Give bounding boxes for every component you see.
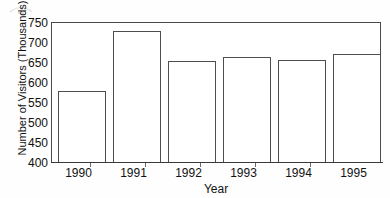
bar-1993 xyxy=(223,57,271,162)
y-tick-label: 600 xyxy=(12,77,48,89)
y-tick-label: 650 xyxy=(12,57,48,69)
bar-1994 xyxy=(278,60,326,163)
bar-1992 xyxy=(168,61,216,162)
y-axis-tick-labels: 750 700 650 600 550 500 450 400 xyxy=(12,0,48,198)
x-tick-label-1993: 1993 xyxy=(216,167,271,180)
bar-1995 xyxy=(333,54,381,162)
y-tick-label: 700 xyxy=(12,37,48,49)
bar-1991 xyxy=(113,31,161,162)
y-tick-label: 400 xyxy=(12,157,48,169)
bar-1990 xyxy=(58,91,106,163)
x-tick-label-1991: 1991 xyxy=(106,167,161,180)
y-tick-label: 450 xyxy=(12,137,48,149)
plot-area xyxy=(51,22,381,163)
bar-chart-figure: Number of Visitors (Thousands) 750 700 6… xyxy=(0,0,390,198)
y-tick-label: 550 xyxy=(12,97,48,109)
x-tick-label-1990: 1990 xyxy=(51,167,106,180)
y-tick-label: 500 xyxy=(12,117,48,129)
y-tick-label: 750 xyxy=(12,17,48,29)
x-axis-title: Year xyxy=(51,182,381,196)
x-tick-label-1995: 1995 xyxy=(326,167,381,180)
x-tick-label-1992: 1992 xyxy=(161,167,216,180)
x-tick-label-1994: 1994 xyxy=(271,167,326,180)
